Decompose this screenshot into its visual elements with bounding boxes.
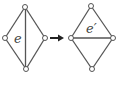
edge-label-e-prime: e′ xyxy=(86,21,97,36)
vertex-bottom xyxy=(24,67,29,72)
edge-flip-diagram: e e′ xyxy=(0,0,121,85)
vertex-right xyxy=(111,36,116,41)
edge-right-bottom xyxy=(92,38,113,69)
edge-top-right xyxy=(25,7,45,38)
vertex-left xyxy=(3,36,8,41)
vertex-right xyxy=(43,36,48,41)
edge-left-bottom xyxy=(71,38,92,69)
vertex-left xyxy=(69,36,74,41)
left-graph: e xyxy=(3,5,48,72)
transform-arrow-icon xyxy=(50,35,64,42)
edge-label-e: e xyxy=(14,31,22,46)
vertex-top xyxy=(89,4,94,9)
right-graph: e′ xyxy=(69,4,116,72)
edge-right-bottom xyxy=(26,38,45,69)
vertex-top xyxy=(23,5,28,10)
vertex-bottom xyxy=(90,67,95,72)
